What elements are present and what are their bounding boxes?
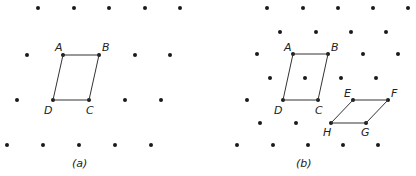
- label-b-H: H: [323, 126, 331, 139]
- parallelogram-abcd-a: [53, 55, 99, 100]
- caption-a: (a): [72, 157, 87, 170]
- panel-a: [5, 6, 182, 147]
- caption-b: (b): [296, 157, 312, 170]
- label-a-D: D: [44, 104, 52, 117]
- label-b-C: C: [315, 104, 323, 117]
- label-a-B: B: [102, 41, 110, 54]
- label-b-E: E: [344, 87, 351, 100]
- label-b-D: D: [274, 104, 282, 117]
- label-b-A: A: [283, 41, 292, 54]
- label-a-C: C: [86, 104, 94, 117]
- lattice-diagram: A B D C (a) A B D C E F H G (b): [0, 0, 416, 176]
- label-b-F: F: [391, 87, 398, 100]
- label-b-B: B: [331, 41, 339, 54]
- label-b-G: G: [361, 126, 370, 139]
- label-a-A: A: [54, 41, 63, 54]
- parallelogram-efgh-b: [331, 100, 388, 123]
